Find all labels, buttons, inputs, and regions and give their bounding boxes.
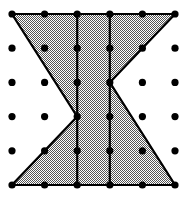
grid-dot[interactable] <box>106 79 113 86</box>
grid-dot[interactable] <box>8 45 15 52</box>
grid-dot[interactable] <box>171 147 178 154</box>
grid-dot[interactable] <box>8 181 15 188</box>
grid-dot[interactable] <box>139 113 146 120</box>
grid-dot[interactable] <box>8 79 15 86</box>
grid-dot[interactable] <box>171 181 178 188</box>
geoboard-figure: Geoboard hourglass figure <box>0 0 192 198</box>
grid-dot[interactable] <box>74 147 81 154</box>
grid-dot[interactable] <box>106 181 113 188</box>
grid-dot[interactable] <box>171 79 178 86</box>
grid-dot[interactable] <box>41 79 48 86</box>
grid-dot[interactable] <box>139 45 146 52</box>
grid-dot[interactable] <box>171 45 178 52</box>
grid-dot[interactable] <box>41 45 48 52</box>
grid-dot[interactable] <box>74 181 81 188</box>
grid-dot[interactable] <box>8 113 15 120</box>
grid-dot[interactable] <box>106 10 113 17</box>
grid-dot[interactable] <box>171 10 178 17</box>
grid-dot[interactable] <box>41 181 48 188</box>
grid-dot[interactable] <box>41 10 48 17</box>
grid-dot[interactable] <box>171 113 178 120</box>
grid-dot[interactable] <box>41 113 48 120</box>
geoboard-canvas <box>0 0 192 198</box>
grid-dot[interactable] <box>74 10 81 17</box>
grid-dot[interactable] <box>74 79 81 86</box>
grid-dot[interactable] <box>8 10 15 17</box>
grid-dot[interactable] <box>139 147 146 154</box>
grid-dot[interactable] <box>106 45 113 52</box>
grid-dot[interactable] <box>139 10 146 17</box>
grid-dot[interactable] <box>139 181 146 188</box>
grid-dot[interactable] <box>8 147 15 154</box>
grid-dot[interactable] <box>139 79 146 86</box>
grid-dot[interactable] <box>74 45 81 52</box>
grid-dot[interactable] <box>41 147 48 154</box>
grid-dot[interactable] <box>106 147 113 154</box>
grid-dot[interactable] <box>106 113 113 120</box>
grid-dot[interactable] <box>74 113 81 120</box>
